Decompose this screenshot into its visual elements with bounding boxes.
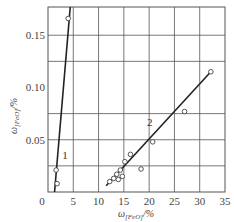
- y-tick-label: 0.15: [26, 29, 46, 41]
- x-tick-label: 15: [118, 195, 130, 207]
- scatter-chart: 05101520253035 0.050.100.15 12 ω[FeO]/% …: [0, 0, 234, 222]
- x-tick-label: 25: [169, 195, 181, 207]
- x-axis-label: ω[FeO]/%: [118, 208, 154, 221]
- data-point-marker: [111, 176, 116, 181]
- x-tick-label: 30: [194, 195, 206, 207]
- data-point-marker: [150, 140, 155, 145]
- x-tick-label: 20: [144, 195, 156, 207]
- y-axis-label: ω[FeO]/%: [8, 98, 21, 134]
- data-point-marker: [118, 168, 123, 173]
- data-point-marker: [139, 167, 144, 172]
- plot-frame: [48, 7, 225, 192]
- x-tick-label: 5: [71, 195, 77, 207]
- data-point-marker: [107, 179, 112, 184]
- data-point-marker: [123, 159, 128, 164]
- x-tick-label: 35: [220, 195, 232, 207]
- grid: [48, 7, 225, 192]
- data-point-marker: [128, 152, 133, 157]
- fit-lines: [55, 7, 211, 192]
- data-point-marker: [209, 70, 214, 75]
- y-tick-label: 0.05: [26, 134, 46, 146]
- data-point-marker: [120, 174, 125, 179]
- data-point-marker: [55, 181, 60, 186]
- series-labels: 12: [62, 116, 152, 160]
- data-point-marker: [54, 168, 59, 173]
- data-point-marker: [114, 172, 119, 177]
- y-tick-label: 0.10: [26, 81, 46, 93]
- x-tick-label: 10: [93, 195, 105, 207]
- series-label-1: 1: [62, 149, 68, 161]
- data-point-marker: [116, 177, 121, 182]
- series-label-2: 2: [147, 116, 153, 128]
- plot-border: [48, 7, 225, 192]
- data-point-marker: [182, 109, 187, 114]
- fit-line-series-1: [55, 7, 71, 192]
- y-axis-ticks: 0.050.100.15: [26, 29, 46, 146]
- data-point-marker: [66, 16, 71, 21]
- x-tick-label: 0: [39, 195, 45, 207]
- data-points: [54, 16, 213, 186]
- x-axis-ticks: 05101520253035: [39, 195, 231, 207]
